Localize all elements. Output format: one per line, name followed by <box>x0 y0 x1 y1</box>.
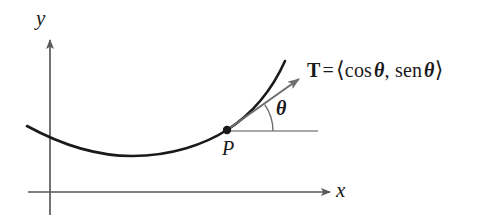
formula-comma: , <box>385 59 390 81</box>
tangent-vector-arrow <box>227 79 299 130</box>
theta-symbol-first: θ <box>374 59 385 81</box>
tangent-vector-figure: y x P θ T=⟨cos θ, sen θ⟩ <box>0 0 479 217</box>
open-angle-bracket: ⟨ <box>336 57 345 82</box>
figure-canvas <box>0 0 479 217</box>
cos-function-label: cos <box>345 59 372 81</box>
parabola-curve <box>27 61 285 156</box>
vector-name-T: T <box>307 59 321 81</box>
equals-sign: = <box>321 59 336 81</box>
theta-symbol-second: θ <box>424 59 435 81</box>
point-p-label: P <box>222 138 234 158</box>
close-angle-bracket: ⟩ <box>435 57 444 82</box>
x-axis-label: x <box>336 180 345 201</box>
point-p-dot <box>223 126 231 134</box>
sen-function-label: sen <box>395 59 422 81</box>
angle-theta-label: θ <box>276 98 286 118</box>
y-axis-label: y <box>36 8 45 29</box>
angle-arc-theta <box>265 105 273 131</box>
tangent-vector-formula: T=⟨cos θ, sen θ⟩ <box>307 59 444 81</box>
